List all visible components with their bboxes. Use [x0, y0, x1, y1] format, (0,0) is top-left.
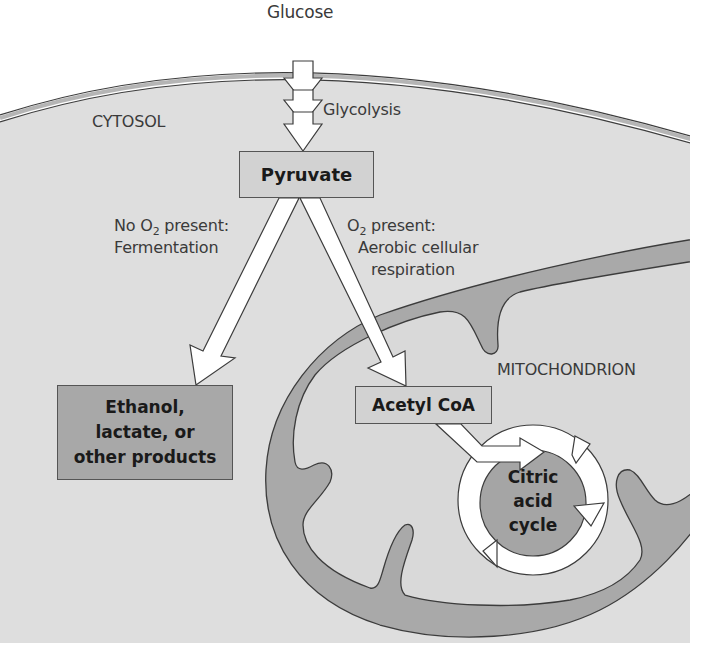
respiration-label: respiration: [371, 260, 455, 280]
cycle-line-2: acid: [493, 489, 573, 513]
oxygen-text-post: present:: [366, 216, 436, 235]
cycle-line-3: cycle: [493, 513, 573, 537]
pyruvate-box: Pyruvate: [239, 151, 374, 198]
acetyl-coa-box: Acetyl CoA: [355, 386, 492, 424]
aerobic-label: Aerobic cellular: [358, 238, 478, 258]
mitochondrion-label: MITOCHONDRION: [497, 360, 636, 380]
oxygen-text-pre: O: [347, 216, 359, 235]
diagram-stage: Glucose Glycolysis CYTOSOL Pyruvate No O…: [0, 0, 714, 668]
glucose-label: Glucose: [267, 2, 333, 22]
no-oxygen-text-pre: No O: [114, 216, 153, 235]
fermentation-products-box: Ethanol, lactate, or other products: [57, 385, 233, 480]
no-oxygen-text-post: present:: [159, 216, 229, 235]
products-line-2: lactate, or: [95, 420, 194, 445]
glycolysis-label: Glycolysis: [323, 100, 401, 120]
acetyl-coa-label: Acetyl CoA: [372, 395, 475, 415]
citric-acid-cycle-label: Citric acid cycle: [493, 465, 573, 537]
products-line-3: other products: [74, 445, 217, 470]
pyruvate-label: Pyruvate: [261, 164, 353, 185]
cytosol-label: CYTOSOL: [92, 112, 165, 132]
products-line-1: Ethanol,: [105, 395, 184, 420]
fermentation-label: Fermentation: [114, 238, 218, 258]
cycle-line-1: Citric: [493, 465, 573, 489]
